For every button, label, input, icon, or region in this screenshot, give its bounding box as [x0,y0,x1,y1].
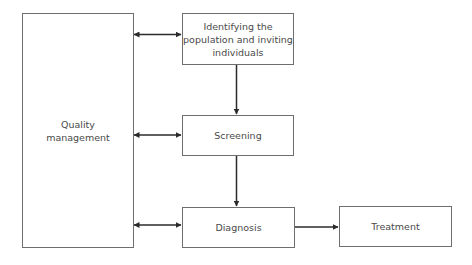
quality-label-line-1: Quality [46,118,110,131]
diagnosis-label: Diagnosis [215,221,261,234]
identify-label-line-1: Identifying the [183,20,293,33]
identify-label-line-2: population and inviting [183,33,293,46]
quality-label-line-2: management [46,131,110,144]
screening-box: Screening [182,115,294,156]
identify-population-box: Identifying the population and inviting … [182,13,294,65]
identify-label-line-3: individuals [183,46,293,59]
treatment-label: Treatment [371,220,419,233]
diagnosis-box: Diagnosis [182,207,295,248]
treatment-box: Treatment [339,206,452,247]
screening-label: Screening [214,129,261,142]
quality-management-box: Quality management [22,13,134,248]
